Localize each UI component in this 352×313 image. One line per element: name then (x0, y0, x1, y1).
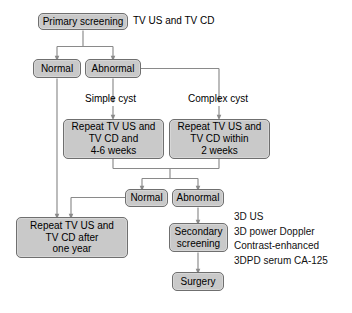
node-abnormal-1[interactable]: Abnormal (85, 59, 141, 78)
node-secondary-screening[interactable]: Secondary screening (169, 223, 228, 252)
annotation-line: 3D US (234, 210, 328, 225)
label-complex-cyst: Complex cyst (188, 93, 248, 106)
node-surgery-label: Surgery (178, 276, 217, 288)
node-repeat-one-year-label: Repeat TV US and TV CD after one year (28, 220, 116, 255)
flowchart-canvas: Primary screening TV US and TV CD Normal… (0, 0, 352, 313)
node-surgery[interactable]: Surgery (172, 272, 224, 291)
node-abnormal-2[interactable]: Abnormal (172, 189, 224, 207)
node-primary-screening-label: Primary screening (41, 16, 126, 28)
node-repeat-one-year[interactable]: Repeat TV US and TV CD after one year (16, 217, 128, 258)
node-repeat-simple-cyst[interactable]: Repeat TV US and TV CD and 4-6 weeks (63, 119, 164, 159)
annotation-line: 3DPD serum CA-125 (234, 254, 328, 269)
node-repeat-complex-cyst-label: Repeat TV US and TV CD within 2 weeks (176, 121, 264, 156)
annotation-line: Contrast-enhanced (234, 239, 328, 254)
annotation-line: 3D power Doppler (234, 225, 328, 240)
node-repeat-complex-cyst[interactable]: Repeat TV US and TV CD within 2 weeks (169, 119, 270, 159)
node-normal-2-label: Normal (128, 192, 164, 204)
node-normal-2[interactable]: Normal (125, 189, 168, 207)
node-abnormal-1-label: Abnormal (90, 63, 137, 75)
node-repeat-simple-cyst-label: Repeat TV US and TV CD and 4-6 weeks (70, 121, 158, 156)
label-primary-modality: TV US and TV CD (133, 15, 215, 28)
node-normal-1[interactable]: Normal (33, 59, 81, 78)
label-simple-cyst: Simple cyst (85, 93, 136, 106)
annotation-secondary-methods: 3D US 3D power Doppler Contrast-enhanced… (234, 210, 328, 268)
node-abnormal-2-label: Abnormal (175, 192, 222, 204)
node-secondary-screening-label: Secondary screening (173, 226, 225, 250)
node-normal-1-label: Normal (39, 63, 75, 75)
node-primary-screening[interactable]: Primary screening (38, 13, 128, 30)
